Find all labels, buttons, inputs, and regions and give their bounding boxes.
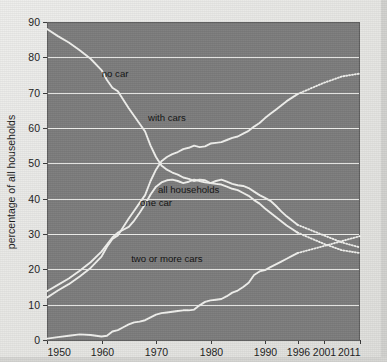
series-label-all-households: all households [158,184,220,195]
y-axis-title-group: percentage of all households [5,115,17,249]
y-tick-label: 10 [28,299,40,311]
x-axis-ticks: 19501960197019801990199620012011 [48,340,361,358]
y-tick-label: 80 [28,51,40,63]
y-tick-label: 60 [28,122,40,134]
y-tick-label: 0 [34,334,40,346]
y-axis-title: percentage of all households [5,115,17,249]
series-label-one-car: one car [140,197,173,208]
y-axis-ticks: 0102030405060708090 [28,16,47,346]
x-tick-label: 2001 [313,346,337,358]
y-tick-label: 30 [28,228,40,240]
x-tick-label: 2011 [338,346,361,358]
y-tick-label: 90 [28,16,40,28]
chart-figure: 0102030405060708090 19501960197019801990… [0,0,387,362]
y-tick-label: 50 [28,157,40,169]
x-tick-label: 1996 [287,346,311,358]
series-label-with-cars: with cars [147,112,186,123]
series-label-two-or-more-cars: two or more cars [131,253,203,264]
x-tick-label: 1980 [200,346,224,358]
line-chart: 0102030405060708090 19501960197019801990… [0,0,387,362]
x-tick-label: 1990 [254,346,278,358]
y-tick-label: 40 [28,193,40,205]
x-tick-label: 1970 [145,346,169,358]
y-tick-label: 20 [28,263,40,275]
y-tick-label: 70 [28,87,40,99]
series-label-no-car: no car [102,68,129,79]
x-tick-label: 1950 [48,346,72,358]
x-tick-label: 1960 [91,346,115,358]
